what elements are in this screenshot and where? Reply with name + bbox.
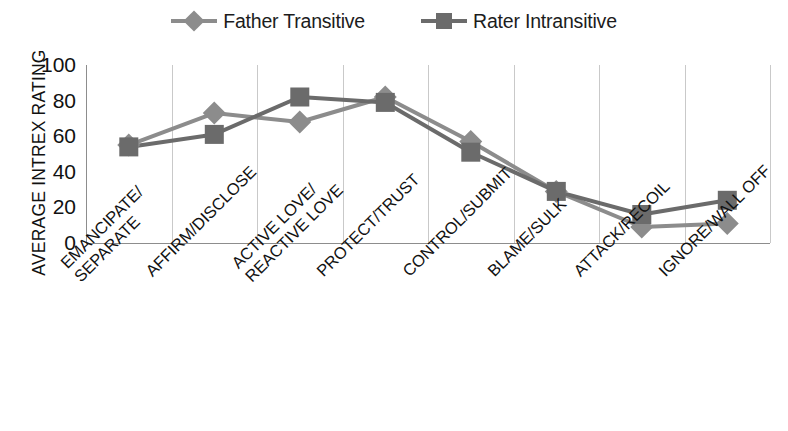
square-marker-icon [290, 88, 309, 107]
plot-area: 100806040200 EMANCIPATE/SEPARATEAFFIRM/D… [0, 0, 788, 431]
square-marker-icon [461, 143, 480, 162]
square-marker-icon [119, 137, 138, 156]
square-marker-icon [205, 125, 224, 144]
diamond-marker-icon [203, 102, 226, 125]
diamond-marker-icon [288, 110, 311, 133]
chart-figure: Father Transitive Rater Intransitive AVE… [0, 0, 788, 431]
square-marker-icon [376, 93, 395, 112]
